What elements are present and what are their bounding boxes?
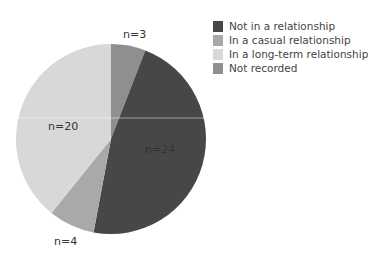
slice-label-not-recorded: n=3 <box>123 28 146 41</box>
legend-swatch <box>213 35 223 46</box>
legend-label: In a casual relationship <box>229 34 351 46</box>
legend-item-not-recorded: Not recorded <box>213 61 368 75</box>
slice-label-not-in-relationship: n=24 <box>145 143 175 156</box>
legend-label: Not in a relationship <box>229 20 335 32</box>
legend-swatch <box>213 63 223 74</box>
slice-label-casual: n=4 <box>54 235 77 248</box>
legend-label: In a long-term relationship <box>229 48 368 60</box>
legend: Not in a relationship In a casual relati… <box>213 19 368 75</box>
legend-swatch <box>213 21 223 32</box>
slice-label-long-term: n=20 <box>48 120 78 133</box>
legend-item-long-term: In a long-term relationship <box>213 47 368 61</box>
legend-label: Not recorded <box>229 62 297 74</box>
legend-item-casual: In a casual relationship <box>213 33 368 47</box>
legend-item-not-in-relationship: Not in a relationship <box>213 19 368 33</box>
legend-swatch <box>213 49 223 60</box>
